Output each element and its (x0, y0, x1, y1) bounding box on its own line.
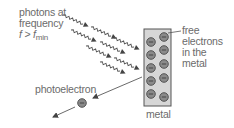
photon-arrow-icon (70, 28, 98, 44)
photon-arrow-icon (85, 44, 113, 60)
metal-label: metal (146, 109, 171, 120)
photons-label-line3: f > fmin (19, 29, 66, 43)
electron-icon (147, 90, 156, 99)
electron-icon (160, 74, 169, 83)
photon-arrows (62, 13, 141, 76)
electron-icon (147, 64, 156, 73)
photon-arrow-icon (99, 60, 127, 76)
electron-icon (160, 60, 169, 69)
electron-icon (160, 33, 169, 42)
emission-arrow-lower (53, 107, 75, 117)
emission-arrow-upper (93, 77, 142, 98)
electron-icon (160, 93, 169, 102)
photons-label: photons at frequency f > fmin (19, 7, 66, 43)
electron-icon (147, 77, 156, 86)
photon-arrow-icon (62, 13, 90, 29)
photoelectron-icon (78, 99, 87, 108)
electron-icon (147, 51, 156, 60)
electron-icon (147, 38, 156, 47)
photoelectric-diagram: photons at frequency f > fmin free elect… (0, 0, 234, 128)
free-electrons-label: free electrons in the metal (182, 25, 223, 69)
electron-icon (160, 46, 169, 55)
photon-arrow-icon (90, 25, 118, 41)
photoelectron-label: photoelectron (35, 84, 96, 95)
